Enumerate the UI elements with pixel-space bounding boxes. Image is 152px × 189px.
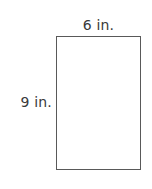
geometry-figure-canvas: 6 in. 9 in. <box>0 0 152 189</box>
height-dimension-label: 9 in. <box>6 94 52 110</box>
rectangle-shape <box>56 36 141 170</box>
width-dimension-label: 6 in. <box>56 17 141 33</box>
